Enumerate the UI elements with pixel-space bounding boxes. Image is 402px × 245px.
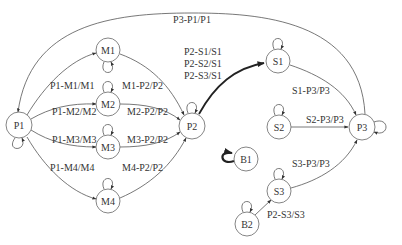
node-p2[interactable]: P2 bbox=[179, 113, 205, 139]
node-b1[interactable]: B1 bbox=[234, 147, 258, 171]
node-label: M3 bbox=[101, 142, 115, 153]
node-b2[interactable]: B2 bbox=[235, 212, 259, 236]
node-p3[interactable]: P3 bbox=[349, 114, 375, 140]
self-loop-b2 bbox=[242, 202, 252, 213]
edge-label-m1-p2: M1-P2/P2 bbox=[122, 80, 163, 91]
node-m4[interactable]: M4 bbox=[96, 189, 120, 213]
node-m1[interactable]: M1 bbox=[96, 38, 120, 62]
self-loop-p2 bbox=[187, 103, 197, 114]
self-loop-s1 bbox=[273, 39, 283, 50]
node-s3[interactable]: S3 bbox=[267, 179, 291, 203]
edge-label-s2-p3: S2-P3/P3 bbox=[306, 114, 344, 125]
self-loop-b1 bbox=[222, 153, 234, 162]
node-m3[interactable]: M3 bbox=[96, 135, 120, 159]
node-label: B1 bbox=[240, 154, 252, 165]
node-label: S3 bbox=[274, 186, 285, 197]
self-loop-s2 bbox=[274, 105, 284, 116]
edge-label-p1-m3: P1-M3/M3 bbox=[52, 134, 96, 145]
node-label: M4 bbox=[101, 196, 115, 207]
edge-label-p1-m2: P1-M2/M2 bbox=[52, 106, 96, 117]
node-label: P3 bbox=[357, 122, 368, 133]
self-loop-s3 bbox=[274, 169, 284, 180]
node-s2[interactable]: S2 bbox=[267, 115, 291, 139]
node-label: S1 bbox=[273, 56, 284, 67]
node-m2[interactable]: M2 bbox=[96, 92, 120, 116]
edge-label-b2-s3: P2-S3/S3 bbox=[267, 209, 305, 220]
node-p1[interactable]: P1 bbox=[6, 112, 32, 138]
self-loop-m2 bbox=[103, 82, 113, 93]
edge-label-p1-m1: P1-M1/M1 bbox=[50, 80, 94, 91]
edge-label-s3-p3: S3-P3/P3 bbox=[292, 158, 330, 169]
self-loop-p1 bbox=[12, 138, 23, 149]
node-label: B2 bbox=[241, 219, 253, 230]
node-label: P1 bbox=[14, 120, 25, 131]
edge-label-p1-m4: P1-M4/M4 bbox=[50, 162, 94, 173]
edge-label-m3-p2: M3-P2/P2 bbox=[127, 134, 168, 145]
edge-label-m2-p2: M2-P2/P2 bbox=[127, 106, 168, 117]
edge-label-p2-s1-line2: P2-S2/S1 bbox=[184, 58, 222, 69]
node-label: S2 bbox=[274, 122, 285, 133]
edge-label-p2-s1-line3: P2-S3/S1 bbox=[184, 70, 222, 81]
node-label: M1 bbox=[101, 45, 115, 56]
self-loop-m3 bbox=[103, 125, 113, 136]
self-loop-m4 bbox=[103, 179, 113, 190]
node-s1[interactable]: S1 bbox=[266, 49, 290, 73]
node-label: M2 bbox=[101, 99, 115, 110]
self-loop-p3 bbox=[374, 121, 386, 133]
edge-label-p2-s1-line1: P2-S1/S1 bbox=[184, 46, 222, 57]
node-label: P2 bbox=[187, 121, 198, 132]
state-diagram: P1 M1 M2 M3 M4 P2 S1 S2 bbox=[0, 0, 402, 245]
edge-label-p3-p1: P3-P1/P1 bbox=[173, 14, 211, 25]
edge-label-s1-p3: S1-P3/P3 bbox=[292, 85, 330, 96]
edge-label-m4-p2: M4-P2/P2 bbox=[122, 162, 163, 173]
self-loop-m1 bbox=[103, 62, 113, 73]
